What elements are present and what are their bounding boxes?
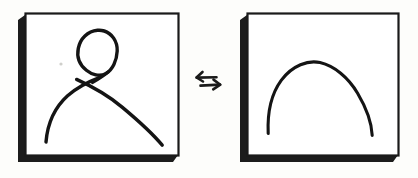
- arch-panel: [240, 14, 399, 163]
- arch-panel-frame: [248, 14, 399, 156]
- paper-speck: [59, 62, 62, 65]
- sketch-canvas: Person silhouette to arch swap sketch pe…: [0, 0, 418, 178]
- swap-arrow-icon: [197, 72, 221, 89]
- person-panel: [18, 14, 179, 163]
- sketch-illustration: [0, 0, 418, 178]
